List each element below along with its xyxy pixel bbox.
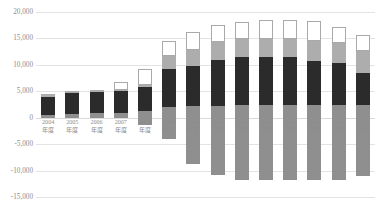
bar-segment-dark bbox=[41, 97, 55, 115]
bar-segment-white-top bbox=[332, 27, 346, 43]
gridline--15000 bbox=[36, 197, 375, 198]
y-tick-label: 15,000 bbox=[0, 34, 33, 42]
bar-segment-base-gray bbox=[307, 105, 321, 118]
bar-segment-light-gray bbox=[186, 50, 200, 66]
bar-segment-base-gray bbox=[90, 113, 104, 117]
bar-segment-light-gray bbox=[356, 51, 370, 74]
bar-2016[interactable] bbox=[332, 12, 346, 197]
bar-segment-white-top bbox=[307, 21, 321, 41]
bar-segment-base-gray bbox=[259, 105, 273, 118]
bar-segment-dark bbox=[332, 63, 346, 105]
bar-segment-light-gray bbox=[235, 39, 249, 58]
bar-2015[interactable] bbox=[307, 12, 321, 197]
bar-segment-base-gray bbox=[162, 107, 176, 118]
bar-segment-white-top bbox=[114, 82, 128, 90]
bar-segment-dark bbox=[138, 87, 152, 112]
bar-segment-white-top bbox=[283, 20, 297, 39]
bar-segment-light-gray bbox=[65, 91, 79, 93]
bars-layer bbox=[36, 12, 375, 197]
bar-segment-light-gray bbox=[307, 41, 321, 61]
bar-segment-light-gray bbox=[332, 43, 346, 63]
bar-segment-light-gray bbox=[114, 90, 128, 91]
bar-2004[interactable] bbox=[41, 12, 55, 197]
x-tick-label: 2017年度 bbox=[349, 119, 377, 134]
bar-segment-white-top bbox=[211, 25, 225, 42]
bar-segment-base-gray bbox=[114, 113, 128, 118]
bar-segment-dark bbox=[307, 61, 321, 105]
bar-segment-white-top bbox=[259, 20, 273, 39]
y-tick-label: 20,000 bbox=[0, 8, 33, 16]
bar-2014[interactable] bbox=[283, 12, 297, 197]
y-tick-label: -5,000 bbox=[0, 140, 33, 148]
bar-2007[interactable] bbox=[114, 12, 128, 197]
y-tick-label: -10,000 bbox=[0, 167, 33, 175]
bar-segment-white-top bbox=[162, 41, 176, 57]
bar-segment-base-gray bbox=[283, 105, 297, 118]
bar-segment-dark bbox=[356, 73, 370, 105]
bar-segment-light-gray bbox=[211, 42, 225, 60]
plot-area: 2004年度2005年度2006年度2007年度2008年度2009年度2010… bbox=[36, 12, 375, 197]
bar-segment-light-gray bbox=[41, 94, 55, 96]
y-tick-label: 0 bbox=[0, 114, 33, 122]
bar-segment-base-gray bbox=[332, 105, 346, 118]
bar-2010[interactable] bbox=[186, 12, 200, 197]
bar-segment-dark bbox=[186, 66, 200, 106]
bar-segment-light-gray bbox=[162, 56, 176, 68]
bar-2008[interactable] bbox=[138, 12, 152, 197]
bar-2006[interactable] bbox=[90, 12, 104, 197]
bar-segment-white-top bbox=[138, 69, 152, 85]
bar-segment-base-gray bbox=[41, 115, 55, 118]
bar-segment-dark bbox=[283, 57, 297, 105]
y-axis-labels: 20,00015,00010,0005,0000-5,000-10,000-15… bbox=[0, 12, 33, 197]
y-tick-label: 5,000 bbox=[0, 87, 33, 95]
bar-2013[interactable] bbox=[259, 12, 273, 197]
bar-segment-dark bbox=[65, 93, 79, 114]
stacked-bar-chart: 20,00015,00010,0005,0000-5,000-10,000-15… bbox=[0, 0, 379, 214]
bar-2005[interactable] bbox=[65, 12, 79, 197]
bar-segment-base-gray bbox=[138, 111, 152, 117]
bar-segment-dark bbox=[162, 69, 176, 108]
bar-segment-dark bbox=[259, 57, 273, 105]
y-tick-label: -15,000 bbox=[0, 193, 33, 201]
bar-segment-dark bbox=[114, 91, 128, 113]
bar-2017[interactable] bbox=[356, 12, 370, 197]
bar-segment-base-gray bbox=[211, 106, 225, 118]
bar-segment-light-gray bbox=[138, 85, 152, 86]
bar-segment-base-gray bbox=[65, 114, 79, 118]
bar-segment-base-gray bbox=[235, 105, 249, 118]
bar-segment-light-gray bbox=[283, 39, 297, 57]
y-tick-label: 10,000 bbox=[0, 61, 33, 69]
bar-segment-white-top bbox=[356, 35, 370, 51]
bar-segment-white-top bbox=[186, 32, 200, 50]
bar-segment-base-gray bbox=[186, 106, 200, 118]
bar-segment-dark bbox=[211, 60, 225, 105]
bar-segment-white-top bbox=[235, 22, 249, 39]
bar-2011[interactable] bbox=[211, 12, 225, 197]
bar-segment-light-gray bbox=[259, 39, 273, 57]
bar-segment-dark bbox=[90, 92, 104, 114]
bar-segment-dark bbox=[235, 57, 249, 105]
bar-2012[interactable] bbox=[235, 12, 249, 197]
bar-2009[interactable] bbox=[162, 12, 176, 197]
bar-segment-base-gray bbox=[356, 105, 370, 118]
bar-segment-light-gray bbox=[90, 90, 104, 92]
